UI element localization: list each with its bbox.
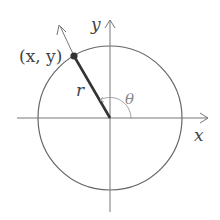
diagram-canvas: (x, y) r θ x y xyxy=(0,0,220,220)
point-marker xyxy=(70,52,77,59)
x-axis-label: x xyxy=(194,125,204,145)
angle-label: θ xyxy=(125,90,134,108)
y-axis-label: y xyxy=(90,14,101,34)
radius-label: r xyxy=(76,80,85,100)
polar-diagram: (x, y) r θ x y xyxy=(0,0,220,220)
point-label: (x, y) xyxy=(19,46,62,66)
